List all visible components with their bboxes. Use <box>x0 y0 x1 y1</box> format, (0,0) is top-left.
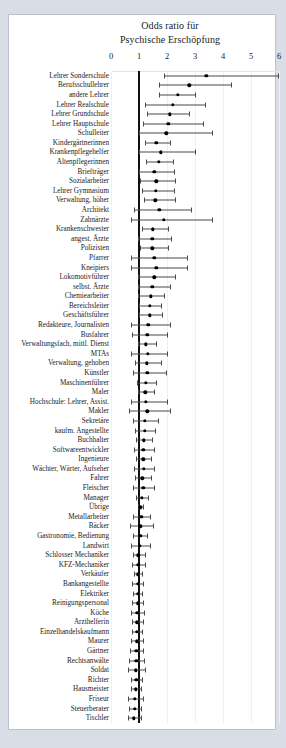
ci-cap-lower <box>139 169 140 174</box>
forest-row: Chemiearbeiter <box>111 292 279 302</box>
forest-row: Köche <box>111 608 279 618</box>
forest-row: MTAs <box>111 349 279 359</box>
point-estimate <box>136 611 139 614</box>
ci-cap-lower <box>132 620 133 625</box>
point-estimate <box>141 458 144 461</box>
row-label: Verwaltung, gehoben <box>48 359 109 367</box>
point-estimate <box>137 553 140 556</box>
ci-cap-lower <box>132 562 133 567</box>
point-estimate <box>143 429 146 432</box>
ci-cap-upper <box>175 275 176 280</box>
forest-row: Zahnärzte <box>111 215 279 225</box>
forest-row: Verkäufer <box>111 570 279 580</box>
ci-cap-upper <box>142 572 143 577</box>
ci-cap-upper <box>174 169 175 174</box>
gridline-6 <box>279 71 280 723</box>
ci-cap-lower <box>138 390 139 395</box>
ci-cap-upper <box>152 438 153 443</box>
point-estimate <box>140 496 143 499</box>
confidence-interval-line <box>159 85 231 86</box>
ci-cap-upper <box>171 236 172 241</box>
forest-row: Bereichsleiter <box>111 301 279 311</box>
ci-cap-lower <box>133 553 134 558</box>
point-estimate <box>151 285 154 288</box>
point-estimate <box>136 563 139 566</box>
row-label: Lokomotivführer <box>59 273 109 281</box>
ci-cap-lower <box>132 629 133 634</box>
ci-cap-lower <box>131 255 132 260</box>
forest-row: Altenpflegerinnen <box>111 157 279 167</box>
forest-row: Maler <box>111 387 279 397</box>
row-label: MTAs <box>91 350 109 358</box>
ci-cap-upper <box>143 505 144 510</box>
ci-cap-upper <box>212 217 213 222</box>
ci-cap-upper <box>154 390 155 395</box>
point-estimate <box>162 218 165 221</box>
forest-row: Verwaltung, höher <box>111 196 279 206</box>
forest-row: Tischler <box>111 713 279 723</box>
point-estimate <box>148 314 151 317</box>
row-label: Wächter, Wärter, Aufseher <box>32 465 109 473</box>
row-label: Reinigungspersonal <box>52 599 109 607</box>
forest-row: Arzthelferin <box>111 618 279 628</box>
forest-row: kaufm. Angestellte <box>111 426 279 436</box>
ci-cap-upper <box>167 399 168 404</box>
plot-panel: Lehrer SonderschuleBerufsschullehrerande… <box>111 71 279 723</box>
ci-cap-lower <box>144 198 145 203</box>
figure-inner: Odds ratio für Psychische Erschöpfung 01… <box>9 15 275 729</box>
forest-row: Hochschule: Lehrer, Assist. <box>111 397 279 407</box>
forest-row: Metallarbeiter <box>111 512 279 522</box>
confidence-interval-line <box>164 75 277 76</box>
forest-row: Geschäftsführer <box>111 311 279 321</box>
ci-cap-lower <box>142 227 143 232</box>
ci-cap-upper <box>167 351 168 356</box>
forest-row: andere Lehrer <box>111 90 279 100</box>
confidence-interval-line <box>131 401 167 402</box>
row-label: Manager <box>83 494 109 502</box>
point-estimate <box>144 381 147 384</box>
forest-row: Polizisten <box>111 244 279 254</box>
confidence-interval-line <box>131 219 211 220</box>
forest-row: Lehrer Gymnasium <box>111 186 279 196</box>
forest-row: Übrige <box>111 502 279 512</box>
confidence-interval-line <box>144 200 175 201</box>
forest-row: Soldat <box>111 665 279 675</box>
row-label: Einzelhandelskaufmann <box>40 628 109 636</box>
ci-cap-lower <box>139 313 140 318</box>
ci-cap-lower <box>134 572 135 577</box>
ci-cap-lower <box>128 697 129 702</box>
ci-cap-upper <box>161 303 162 308</box>
row-label: Arzthelferin <box>74 618 109 626</box>
ci-cap-lower <box>135 361 136 366</box>
row-label: Tischler <box>86 714 109 722</box>
row-label: Altenpflegerinnen <box>57 158 109 166</box>
forest-row: Schlosser Mechaniker <box>111 550 279 560</box>
point-estimate <box>144 400 147 403</box>
forest-row: Bankangestellte <box>111 579 279 589</box>
ci-cap-upper <box>145 553 146 558</box>
ci-cap-upper <box>162 313 163 318</box>
ci-cap-upper <box>143 601 144 606</box>
forest-row: Einzelhandelskaufmann <box>111 627 279 637</box>
ci-cap-upper <box>187 255 188 260</box>
row-label: Briefträger <box>77 168 109 176</box>
x-axis-tick-labels: 0123456 <box>111 51 279 65</box>
ci-cap-lower <box>136 495 137 500</box>
ci-cap-lower <box>135 428 136 433</box>
x-tick-6: 6 <box>277 51 281 61</box>
ci-cap-upper <box>278 73 279 78</box>
ci-cap-upper <box>143 581 144 586</box>
point-estimate <box>150 247 153 250</box>
ci-cap-lower <box>131 351 132 356</box>
ci-cap-upper <box>205 102 206 107</box>
confidence-interval-line <box>145 104 205 105</box>
forest-row: Kindergärtnerinnen <box>111 138 279 148</box>
forest-row: Sozialarbeiter <box>111 176 279 186</box>
row-label: Maschinenführer <box>60 379 109 387</box>
confidence-interval-line <box>131 267 186 268</box>
forest-row: Landwirt <box>111 541 279 551</box>
ci-cap-upper <box>142 629 143 634</box>
forest-row: Lokomotivführer <box>111 272 279 282</box>
point-estimate <box>157 208 160 211</box>
ci-cap-upper <box>170 140 171 145</box>
